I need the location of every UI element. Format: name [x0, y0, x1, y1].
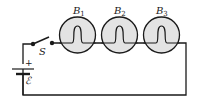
- switch-contact-right: [50, 41, 54, 45]
- switch-blade: [33, 37, 49, 44]
- battery-positive-label: +: [25, 58, 33, 68]
- bulb-1-globe: [60, 17, 96, 53]
- switch: S: [31, 37, 54, 57]
- bulb-2-globe: [102, 17, 138, 53]
- bulb-3-label: B3: [155, 5, 168, 18]
- bulb-1: [60, 17, 96, 53]
- bulb-2: [102, 17, 138, 53]
- switch-label: S: [39, 46, 46, 57]
- bulb-3-globe: [144, 17, 180, 53]
- battery-emf-label: ℰ: [25, 75, 32, 86]
- switch-contact-left: [31, 42, 35, 46]
- circuit-diagram: S + ℰ B1 B2 B3: [0, 0, 207, 99]
- bulb-1-label: B1: [72, 5, 85, 18]
- bulb-2-label: B2: [113, 5, 126, 18]
- bulb-3: [144, 17, 180, 53]
- bulb-labels: B1 B2 B3: [72, 5, 168, 18]
